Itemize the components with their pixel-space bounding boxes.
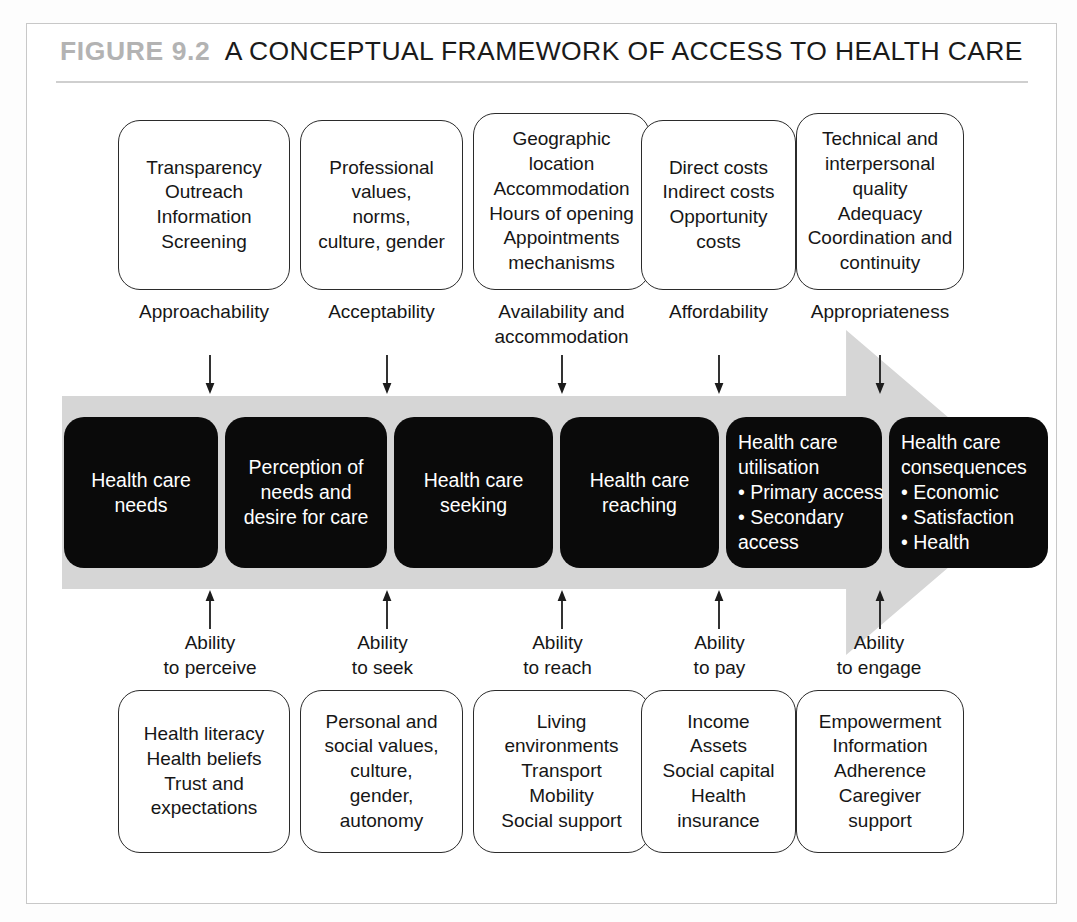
figure-container: FIGURE 9.2 A CONCEPTUAL FRAMEWORK OF ACC…: [0, 0, 1077, 922]
ability-to-pay-label: Ability to pay: [642, 630, 797, 680]
ability-to-seek-label: Ability to seek: [305, 630, 460, 680]
ability-line: to engage: [800, 655, 958, 680]
ability-line: to seek: [305, 655, 460, 680]
down-arrow-acceptability: [381, 355, 393, 395]
ability-to-reach-label: Ability to reach: [480, 630, 635, 680]
demand-box-line: Assets: [650, 734, 787, 759]
pathway-step-line: • Satisfaction: [901, 505, 1036, 530]
supply-box-line: Transparency: [127, 156, 281, 181]
demand-box-line: expectations: [127, 796, 281, 821]
demand-box-line: Health: [650, 784, 787, 809]
demand-box-ability-to-perceive: Health literacy Health beliefs Trust and…: [118, 690, 290, 853]
ability-line: Ability: [480, 630, 635, 655]
pathway-step-line: Health care: [738, 430, 870, 455]
title-divider: [56, 81, 1028, 83]
pathway-step-health-care-consequences: Health care consequences • Economic • Sa…: [889, 417, 1048, 568]
demand-box-line: Social support: [482, 809, 641, 834]
supply-box-line: culture, gender: [309, 230, 454, 255]
supply-box-line: Technical and: [805, 127, 955, 152]
demand-box-ability-to-pay: Income Assets Social capital Health insu…: [641, 690, 796, 853]
ability-line: to reach: [480, 655, 635, 680]
supply-box-line: Indirect costs: [650, 180, 787, 205]
pathway-step-line: Perception of: [237, 455, 375, 480]
pathway-step-line: Health care: [76, 468, 206, 493]
supply-box-affordability: Direct costs Indirect costs Opportunity …: [641, 120, 796, 290]
demand-box-line: Trust and: [127, 772, 281, 797]
demand-box-line: Income: [650, 710, 787, 735]
ability-to-perceive-label: Ability to perceive: [128, 630, 292, 680]
up-arrow-ability-to-engage: [874, 589, 886, 629]
pathway-step-line: needs: [76, 493, 206, 518]
pathway-step-line: • Health: [901, 530, 1036, 555]
demand-box-line: Empowerment: [805, 710, 955, 735]
demand-box-line: Living: [482, 710, 641, 735]
supply-box-line: Opportunity: [650, 205, 787, 230]
supply-box-line: continuity: [805, 251, 955, 276]
pathway-step-health-care-utilisation: Health care utilisation • Primary access…: [726, 417, 882, 568]
up-arrow-ability-to-seek: [381, 589, 393, 629]
supply-box-line: Appointments: [482, 226, 641, 251]
supply-box-acceptability: Professional values, norms, culture, gen…: [300, 120, 463, 290]
pathway-step-health-care-needs: Health care needs: [64, 417, 218, 568]
demand-box-line: Personal and: [309, 710, 454, 735]
pathway-step-line: • Primary access: [738, 480, 870, 505]
caption-approachability: Approachability: [118, 300, 290, 325]
supply-box-appropriateness: Technical and interpersonal quality Adeq…: [796, 113, 964, 290]
demand-box-line: Information: [805, 734, 955, 759]
pathway-step-line: access: [738, 530, 870, 555]
supply-box-line: mechanisms: [482, 251, 641, 276]
supply-box-line: interpersonal: [805, 152, 955, 177]
demand-box-line: social values,: [309, 734, 454, 759]
supply-box-line: Screening: [127, 230, 281, 255]
supply-box-line: norms,: [309, 205, 454, 230]
up-arrow-ability-to-perceive: [204, 589, 216, 629]
pathway-step-line: Health care: [406, 468, 541, 493]
figure-title-text: A CONCEPTUAL FRAMEWORK OF ACCESS TO HEAL…: [225, 36, 1023, 66]
ability-line: Ability: [128, 630, 292, 655]
caption-line: Affordability: [641, 300, 796, 325]
pathway-step-line: seeking: [406, 493, 541, 518]
down-arrow-approachability: [204, 355, 216, 395]
ability-line: Ability: [800, 630, 958, 655]
up-arrow-ability-to-reach: [556, 589, 568, 629]
down-arrow-appropriateness: [874, 355, 886, 395]
supply-box-line: Adequacy: [805, 202, 955, 227]
pathway-step-line: utilisation: [738, 455, 870, 480]
supply-box-line: Hours of opening: [482, 202, 641, 227]
demand-box-line: environments: [482, 734, 641, 759]
pathway-step-line: • Secondary: [738, 505, 870, 530]
supply-box-line: Information: [127, 205, 281, 230]
pathway-step-line: Health care: [572, 468, 707, 493]
up-arrow-ability-to-pay: [713, 589, 725, 629]
demand-box-line: Transport: [482, 759, 641, 784]
pathway-step-health-care-seeking: Health care seeking: [394, 417, 553, 568]
ability-to-engage-label: Ability to engage: [800, 630, 958, 680]
demand-box-line: Social capital: [650, 759, 787, 784]
pathway-step-health-care-reaching: Health care reaching: [560, 417, 719, 568]
supply-box-line: Direct costs: [650, 156, 787, 181]
pathway-step-line: consequences: [901, 455, 1036, 480]
down-arrow-availability: [556, 355, 568, 395]
caption-affordability: Affordability: [641, 300, 796, 325]
caption-line: Approachability: [118, 300, 290, 325]
demand-box-line: Health beliefs: [127, 747, 281, 772]
supply-box-line: Geographic: [482, 127, 641, 152]
demand-box-line: gender,: [309, 784, 454, 809]
supply-box-approachability: Transparency Outreach Information Screen…: [118, 120, 290, 290]
caption-appropriateness: Appropriateness: [790, 300, 970, 325]
demand-box-ability-to-seek: Personal and social values, culture, gen…: [300, 690, 463, 853]
demand-box-ability-to-engage: Empowerment Information Adherence Caregi…: [796, 690, 964, 853]
caption-line: Appropriateness: [790, 300, 970, 325]
supply-box-line: location: [482, 152, 641, 177]
demand-box-line: Mobility: [482, 784, 641, 809]
pathway-step-line: desire for care: [237, 505, 375, 530]
caption-availability: Availability and accommodation: [473, 300, 650, 349]
figure-title: FIGURE 9.2 A CONCEPTUAL FRAMEWORK OF ACC…: [26, 36, 1057, 67]
ability-line: Ability: [305, 630, 460, 655]
caption-line: accommodation: [473, 325, 650, 350]
supply-box-line: costs: [650, 230, 787, 255]
demand-box-line: Caregiver: [805, 784, 955, 809]
pathway-step-line: needs and: [237, 480, 375, 505]
demand-box-line: support: [805, 809, 955, 834]
ability-line: to pay: [642, 655, 797, 680]
